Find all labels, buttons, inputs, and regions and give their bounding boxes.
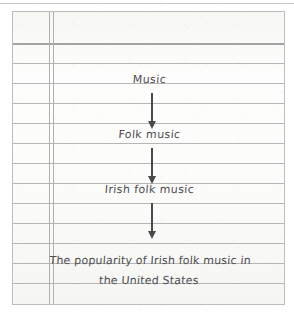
diagram-node-folk-music: Folk music <box>13 128 285 141</box>
arrow-shaft <box>151 148 153 177</box>
arrow-head <box>148 231 156 239</box>
diagram-node-irish-folk-music: Irish folk music <box>13 183 285 196</box>
notebook-paper: Music Folk music Irish folk music The po… <box>12 11 285 305</box>
scanned-page: Music Folk music Irish folk music The po… <box>0 0 294 319</box>
down-arrow-icon <box>151 148 153 177</box>
diagram-node-topic-statement: The popularity of Irish folk music in th… <box>12 251 285 291</box>
handwritten-diagram: Music Folk music Irish folk music The po… <box>13 12 285 305</box>
diagram-node-music: Music <box>13 73 285 86</box>
scan-edge-line <box>0 3 294 4</box>
arrow-shaft <box>151 203 153 232</box>
down-arrow-icon <box>151 203 153 232</box>
down-arrow-icon <box>151 93 153 122</box>
arrow-shaft <box>151 93 153 122</box>
